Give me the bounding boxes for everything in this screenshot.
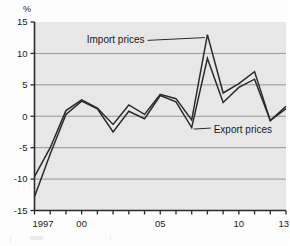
annotation-label: Export prices xyxy=(214,124,272,135)
y-tick-label: -15 xyxy=(14,205,28,216)
x-axis-tick-labels: 199700051013 xyxy=(33,218,290,229)
import-export-prices-line-chart: 151050-5-10-15 199700051013 Import price… xyxy=(0,0,289,246)
x-tick-label: 10 xyxy=(234,218,245,229)
y-tick-label: 0 xyxy=(22,111,27,122)
x-tick-label: 00 xyxy=(76,218,87,229)
y-tick-label: 10 xyxy=(17,48,28,59)
x-tick-label: 05 xyxy=(155,218,166,229)
annotation-label: Import prices xyxy=(87,34,145,45)
artifact-mark-left xyxy=(10,237,11,242)
y-tick-label: -10 xyxy=(14,173,28,184)
artifact-mark-right xyxy=(110,236,111,241)
y-tick-label: 15 xyxy=(17,16,28,27)
y-tick-label: 5 xyxy=(22,79,27,90)
chart-figure: 151050-5-10-15 199700051013 Import price… xyxy=(0,0,289,246)
artifact-mark-mid xyxy=(30,236,43,240)
y-axis-unit-label: % xyxy=(23,4,31,14)
y-tick-label: -5 xyxy=(19,142,27,153)
x-tick-label: 1997 xyxy=(33,218,54,229)
page-bleed-artifact xyxy=(6,236,156,243)
y-axis-tick-labels: 151050-5-10-15 xyxy=(14,16,28,216)
x-tick-label: 13 xyxy=(278,218,289,229)
